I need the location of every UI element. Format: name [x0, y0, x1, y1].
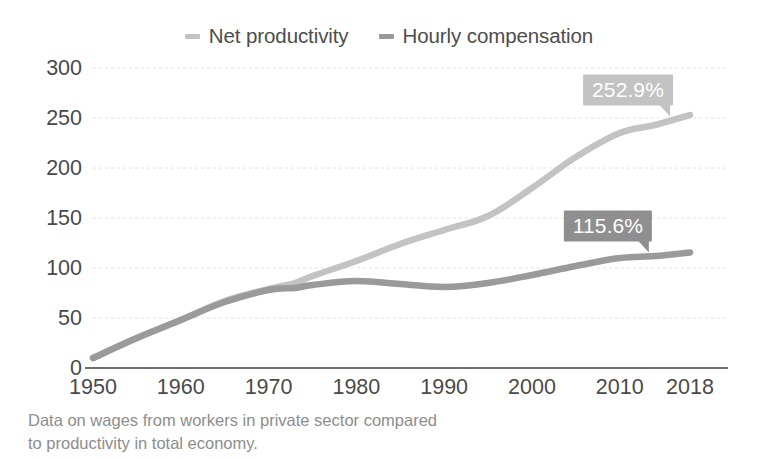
plot-area: 050100150200250300 195019601970198019902…	[0, 0, 778, 400]
chart-canvas	[0, 0, 778, 400]
x-tick-label: 1990	[420, 375, 468, 400]
x-tick-label: 1980	[332, 375, 380, 400]
y-tick-label: 300	[46, 56, 82, 81]
x-axis-tick-labels: 19501960197019801990200020102018	[0, 375, 778, 405]
y-axis-tick-labels: 050100150200250300	[22, 0, 82, 400]
series-line[interactable]	[93, 252, 690, 358]
x-tick-label: 2018	[666, 375, 714, 400]
callout-tail-icon	[659, 105, 670, 117]
y-tick-label: 200	[46, 156, 82, 181]
gridlines	[93, 68, 728, 318]
productivity-pay-gap-chart: Net productivity Hourly compensation 050…	[0, 0, 778, 459]
callout-box: 252.9%	[583, 75, 673, 106]
callout-tail-icon	[638, 241, 649, 253]
callout-box: 115.6%	[564, 211, 652, 242]
x-tick-label: 2010	[596, 375, 644, 400]
x-tick-label: 1950	[69, 375, 117, 400]
callout-value-text: 252.9%	[592, 78, 664, 101]
y-tick-label: 250	[46, 106, 82, 131]
x-tick-label: 1970	[245, 375, 293, 400]
y-tick-label: 150	[46, 206, 82, 231]
value-callout: 252.9%	[583, 75, 673, 106]
x-tick-label: 1960	[157, 375, 205, 400]
value-callout: 115.6%	[564, 211, 652, 242]
footnote-line-2: to productivity in total economy.	[28, 432, 548, 455]
callout-value-text: 115.6%	[573, 214, 643, 237]
y-tick-label: 100	[46, 256, 82, 281]
footnote-line-1: Data on wages from workers in private se…	[28, 409, 548, 432]
y-tick-label: 50	[58, 306, 82, 331]
x-tick-label: 2000	[508, 375, 556, 400]
chart-footnote: Data on wages from workers in private se…	[28, 409, 548, 455]
